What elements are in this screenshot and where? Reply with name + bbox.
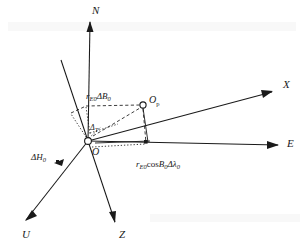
arrowhead-east — [267, 141, 279, 149]
axis-label-x: X — [282, 78, 291, 90]
arrowhead-u — [25, 210, 37, 221]
arrowhead-north — [87, 21, 94, 32]
point-marker-origin — [85, 138, 92, 145]
axis-line-oblique — [61, 60, 88, 141]
dotted-origin-to-left — [71, 114, 88, 140]
measure-db-sub-0: 0 — [108, 95, 112, 102]
measure-dh-main: ΔH — [30, 152, 43, 162]
axis-label-z: Z — [119, 228, 126, 240]
axis-line-x — [88, 92, 272, 141]
dotted-base-to-corner — [92, 144, 146, 147]
measure-label-delta-b: rE0ΔB0 — [86, 91, 112, 102]
axis-label-east: E — [286, 137, 294, 149]
arrowhead-z — [109, 211, 116, 223]
measure-dh-sub: 0 — [43, 156, 47, 163]
midpoint-marker-delta-h — [56, 160, 59, 163]
figure-root: N E X Z U O Op rE0ΔB0 rE0cosB0Δλ0 ΔH0 ΔT — [0, 0, 304, 248]
measure-db-delta: ΔB — [96, 91, 108, 101]
measure-dl-sub-l0: 0 — [177, 163, 181, 170]
point-label-op: Op — [149, 94, 159, 107]
point-marker-op — [140, 102, 146, 108]
measure-label-delta-h: ΔH0 — [30, 152, 47, 163]
axis-line-east — [88, 141, 278, 145]
angle-label-delta-t: ΔT — [89, 123, 99, 133]
angle-dt-sub: T — [95, 126, 99, 133]
axis-label-u: U — [22, 228, 31, 240]
measure-label-delta-lambda: rE0cosB0Δλ0 — [136, 159, 181, 170]
coordinate-diagram: N E X Z U O Op rE0ΔB0 rE0cosB0Δλ0 ΔH0 ΔT — [0, 0, 304, 248]
corner-marker-base — [144, 140, 148, 144]
measure-dl-dlambda: Δλ — [167, 159, 177, 169]
axis-label-north: N — [91, 4, 100, 16]
point-label-op-sub: p — [156, 100, 159, 107]
arrowhead-x — [261, 90, 273, 98]
measure-dl-cos: cos — [147, 159, 159, 169]
point-label-op-main: O — [149, 94, 156, 105]
dashed-top-edge — [86, 105, 140, 106]
dashed-origin-to-op — [93, 108, 140, 136]
point-label-origin: O — [92, 146, 99, 157]
